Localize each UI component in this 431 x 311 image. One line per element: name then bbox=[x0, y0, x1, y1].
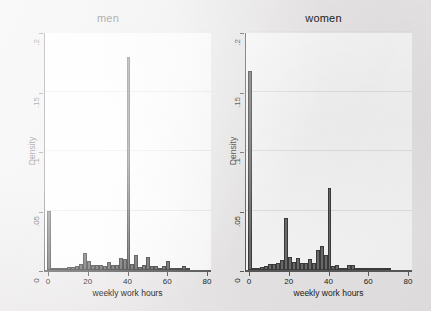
x-tick-label-men-2: 40 bbox=[116, 277, 140, 286]
panel-women-title: women bbox=[216, 12, 431, 24]
x-tick-women-4 bbox=[408, 272, 409, 276]
x-tick-women-0 bbox=[249, 272, 250, 276]
panel-men-title: men bbox=[0, 12, 216, 24]
histogram-bar bbox=[127, 57, 131, 270]
x-tick-label-women-0: 0 bbox=[237, 277, 261, 286]
x-tick-label-women-3: 60 bbox=[356, 277, 380, 286]
x-tick-women-2 bbox=[329, 272, 330, 276]
y-tick-label-men-2: .1 bbox=[32, 152, 41, 172]
x-tick-label-men-3: 60 bbox=[155, 277, 179, 286]
gridline-women-3 bbox=[246, 91, 412, 92]
x-tick-label-women-1: 20 bbox=[277, 277, 301, 286]
x-axis-label-women: weekly work hours bbox=[245, 288, 412, 298]
plot-area-women bbox=[245, 33, 412, 271]
x-tick-women-1 bbox=[289, 272, 290, 276]
gridline-women-2 bbox=[246, 150, 412, 151]
x-tick-label-men-0: 0 bbox=[36, 277, 60, 286]
histogram-bar bbox=[387, 268, 391, 270]
gridline-men-4 bbox=[45, 31, 211, 32]
y-tick-label-men-4: .2 bbox=[32, 33, 41, 53]
histogram-bar bbox=[248, 71, 252, 270]
histogram-bar bbox=[47, 211, 51, 270]
panel-men: men Density weekly work hours 0.05.1.15.… bbox=[0, 0, 216, 311]
x-tick-men-0 bbox=[48, 272, 49, 276]
x-tick-women-3 bbox=[368, 272, 369, 276]
x-tick-label-women-4: 80 bbox=[396, 277, 420, 286]
y-tick-label-men-1: .05 bbox=[32, 211, 41, 231]
x-tick-men-2 bbox=[128, 272, 129, 276]
y-tick-label-women-1: .05 bbox=[233, 211, 242, 231]
y-tick-label-men-3: .15 bbox=[32, 92, 41, 112]
x-tick-men-3 bbox=[167, 272, 168, 276]
plot-area-men bbox=[44, 33, 211, 271]
histogram-figure: men Density weekly work hours 0.05.1.15.… bbox=[0, 0, 431, 311]
x-tick-label-men-1: 20 bbox=[76, 277, 100, 286]
y-tick-label-women-2: .1 bbox=[233, 152, 242, 172]
x-axis-label-men: weekly work hours bbox=[44, 288, 211, 298]
gridline-women-4 bbox=[246, 31, 412, 32]
y-tick-label-women-4: .2 bbox=[233, 33, 242, 53]
x-tick-men-4 bbox=[207, 272, 208, 276]
histogram-bar bbox=[328, 188, 332, 270]
histogram-bar bbox=[186, 268, 190, 270]
panel-women: women Density weekly work hours 0.05.1.1… bbox=[216, 0, 431, 311]
x-tick-men-1 bbox=[88, 272, 89, 276]
y-tick-label-women-3: .15 bbox=[233, 92, 242, 112]
x-tick-label-women-2: 40 bbox=[317, 277, 341, 286]
